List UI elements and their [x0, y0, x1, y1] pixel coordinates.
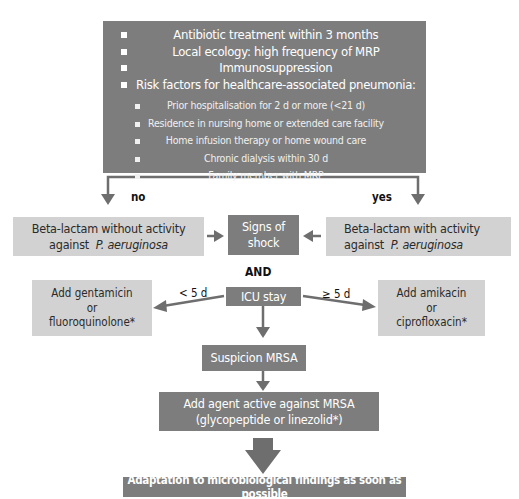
- sub-criterion: Family member with MRP: [135, 167, 384, 185]
- sub-criterion: Prior hospitalisation for 2 d or more (<…: [135, 97, 384, 115]
- branch-label-no: no: [131, 190, 145, 204]
- icu-branch-label-less: < 5 d: [179, 286, 207, 300]
- box-line: or: [426, 301, 437, 315]
- organism-name: P. aeruginosa: [96, 237, 168, 252]
- suspicion-mrsa-box: Suspicion MRSA: [202, 345, 306, 371]
- criterion: Risk factors for healthcare-associated p…: [121, 77, 416, 94]
- box-line: ciprofloxacin*: [396, 315, 467, 329]
- box-line: Beta-lactam with activity: [344, 221, 480, 237]
- adaptation-box: Adaptation to microbiological findings a…: [123, 477, 406, 497]
- criteria-list: Antibiotic treatment within 3 months Loc…: [121, 27, 416, 93]
- box-line: (glycopeptide or linezolid*): [196, 412, 343, 428]
- sub-criterion: Chronic dialysis within 30 d: [135, 150, 384, 168]
- criterion: Immunosuppression: [121, 60, 416, 77]
- icu-branch-label-greater: ≥ 5 d: [322, 287, 350, 301]
- criterion: Antibiotic treatment within 3 months: [121, 27, 416, 44]
- arrow-down-to-mrsa: [256, 327, 270, 338]
- box-line: against P. aeruginosa: [49, 237, 168, 253]
- arrow-down-yes: [411, 194, 425, 205]
- box-line: against P. aeruginosa: [344, 237, 463, 253]
- box-line: shock: [248, 235, 280, 251]
- arrow-to-left-add: [153, 300, 167, 312]
- add-gentamicin-box: Add gentamicin or fluoroquinolone*: [32, 280, 152, 336]
- arrow-down-no: [101, 194, 115, 205]
- box-line: Beta-lactam without activity: [32, 221, 186, 237]
- branch-label-yes: yes: [372, 190, 392, 204]
- arrow-right-to-shock: [214, 230, 224, 242]
- box-line: Add gentamicin: [51, 286, 132, 300]
- arrow-left-to-shock: [303, 230, 313, 242]
- arrow-to-right-add: [362, 299, 376, 311]
- add-amikacin-box: Add amikacin or ciprofloxacin*: [378, 280, 485, 336]
- box-line: or: [87, 301, 98, 315]
- box-line: ICU stay: [241, 289, 286, 305]
- beta-lactam-without-activity-box: Beta-lactam without activity against P. …: [13, 217, 204, 256]
- add-mrsa-agent-box: Add agent active against MRSA (glycopept…: [159, 392, 379, 431]
- box-line: Add agent active against MRSA: [184, 396, 355, 412]
- box-line: Signs of: [242, 219, 285, 235]
- box-line: Adaptation to microbiological findings a…: [123, 473, 406, 499]
- and-label: AND: [245, 265, 271, 279]
- big-arrow-down: [245, 438, 281, 474]
- box-line: Suspicion MRSA: [210, 350, 297, 366]
- beta-lactam-with-activity-box: Beta-lactam with activity against P. aer…: [326, 217, 511, 256]
- icu-stay-box: ICU stay: [226, 287, 301, 306]
- box-line: Add amikacin: [397, 286, 467, 300]
- sub-criterion: Residence in nursing home or extended ca…: [135, 115, 384, 133]
- sub-criteria-list: Prior hospitalisation for 2 d or more (<…: [121, 97, 384, 185]
- sub-criterion: Home infusion therapy or home wound care: [135, 132, 384, 150]
- risk-criteria-box: Antibiotic treatment within 3 months Loc…: [103, 21, 426, 173]
- box-line: fluoroquinolone*: [49, 315, 135, 329]
- arrow-down-to-agent: [256, 381, 270, 391]
- criterion: Local ecology: high frequency of MRP: [121, 44, 416, 61]
- organism-name: P. aeruginosa: [391, 237, 463, 252]
- signs-of-shock-box: Signs of shock: [228, 215, 299, 255]
